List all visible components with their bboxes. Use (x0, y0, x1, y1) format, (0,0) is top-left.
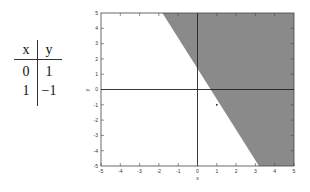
svg-text:3: 3 (254, 168, 257, 174)
svg-text:-4: -4 (94, 148, 99, 154)
svg-text:-4: -4 (118, 168, 123, 174)
svg-text:2: 2 (235, 168, 238, 174)
svg-text:-3: -3 (94, 132, 99, 138)
svg-text:-1: -1 (176, 168, 181, 174)
x-axis-label: x (196, 175, 199, 181)
point-marker (216, 104, 218, 106)
svg-text:0: 0 (95, 86, 98, 92)
x-tick-labels: -5 -4 -3 -2 -1 0 1 2 3 4 5 (99, 168, 296, 174)
svg-text:1: 1 (95, 71, 98, 77)
y-tick-labels: 5 4 3 2 1 0 -1 -2 -3 -4 -5 (94, 10, 99, 169)
svg-text:-3: -3 (137, 168, 142, 174)
svg-text:-2: -2 (94, 117, 99, 123)
svg-text:-2: -2 (157, 168, 162, 174)
svg-text:0: 0 (196, 168, 199, 174)
svg-text:5: 5 (95, 10, 98, 16)
svg-text:-1: -1 (94, 102, 99, 108)
svg-text:2: 2 (95, 56, 98, 62)
svg-text:4: 4 (95, 25, 98, 31)
svg-text:4: 4 (273, 168, 276, 174)
svg-text:3: 3 (95, 40, 98, 46)
svg-text:-5: -5 (99, 168, 104, 174)
y-axis-label: y (84, 88, 90, 91)
svg-text:5: 5 (293, 168, 296, 174)
inequality-plot: -5 -4 -3 -2 -1 0 1 2 3 4 5 x 5 4 3 2 1 0… (0, 0, 310, 192)
svg-text:-5: -5 (94, 163, 99, 169)
svg-text:1: 1 (215, 168, 218, 174)
